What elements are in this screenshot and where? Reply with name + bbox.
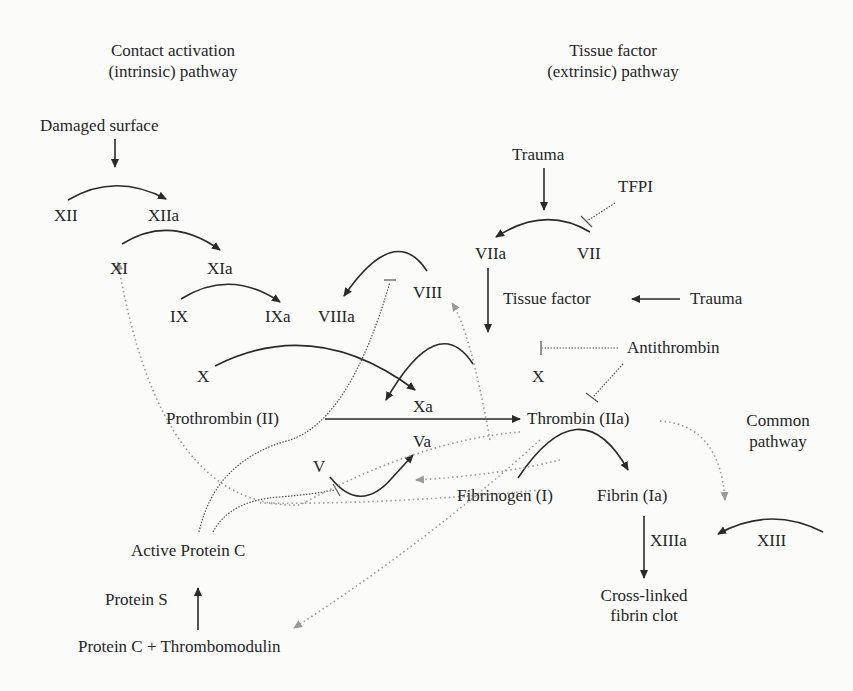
node-antithrombin: Antithrombin	[627, 338, 720, 358]
node-trauma-right: Trauma	[690, 289, 742, 309]
node-fibrinogen: Fibrinogen (I)	[457, 486, 553, 506]
node-xia: XIa	[207, 259, 232, 279]
node-v: V	[313, 457, 325, 477]
node-fibrin: Fibrin (Ia)	[597, 486, 667, 506]
node-protein-s: Protein S	[105, 590, 168, 610]
node-xiiia: XIIIa	[650, 531, 687, 551]
heading-line: (intrinsic) pathway	[109, 61, 238, 82]
node-xiia: XIIa	[148, 206, 179, 226]
heading-line: Tissue factor	[547, 40, 679, 61]
node-tfpi: TFPI	[618, 177, 653, 197]
node-protein-c-thrombomodulin: Protein C + Thrombomodulin	[78, 637, 280, 657]
node-thrombin: Thrombin (IIa)	[527, 409, 629, 429]
node-ixa: IXa	[265, 307, 290, 327]
node-xii: XII	[54, 206, 78, 226]
node-viii: VIII	[413, 283, 442, 303]
node-viiia: VIIIa	[318, 307, 355, 327]
node-xa: Xa	[413, 397, 433, 417]
node-ix: IX	[170, 307, 188, 327]
heading-line: pathway	[746, 431, 809, 452]
clot-line: fibrin clot	[601, 606, 688, 626]
node-viia: VIIa	[475, 244, 506, 264]
coagulation-cascade-diagram: Contact activation (intrinsic) pathway T…	[0, 0, 853, 691]
clot-line: Cross-linked	[601, 586, 688, 606]
heading-line: (extrinsic) pathway	[547, 61, 679, 82]
extrinsic-pathway-heading: Tissue factor (extrinsic) pathway	[547, 40, 679, 82]
node-va: Va	[413, 432, 431, 452]
common-pathway-heading: Common pathway	[746, 410, 809, 452]
heading-line: Common	[746, 410, 809, 431]
node-cross-linked-clot: Cross-linked fibrin clot	[601, 586, 688, 626]
intrinsic-pathway-heading: Contact activation (intrinsic) pathway	[109, 40, 238, 82]
node-prothrombin: Prothrombin (II)	[166, 409, 279, 429]
diagram-connectors	[0, 0, 853, 691]
common-solid-arrows	[198, 429, 823, 630]
node-xi: XI	[110, 259, 128, 279]
node-damaged-surface: Damaged surface	[40, 116, 158, 136]
heading-line: Contact activation	[109, 40, 238, 61]
node-trauma-top: Trauma	[512, 145, 564, 165]
node-x-intrinsic: X	[197, 367, 209, 387]
node-x-extrinsic: X	[532, 367, 544, 387]
node-vii: VII	[577, 244, 601, 264]
node-active-protein-c: Active Protein C	[131, 541, 245, 561]
node-xiii: XIII	[757, 531, 786, 551]
node-tissue-factor: Tissue factor	[503, 289, 591, 309]
dotted-inhibitors	[199, 203, 623, 532]
